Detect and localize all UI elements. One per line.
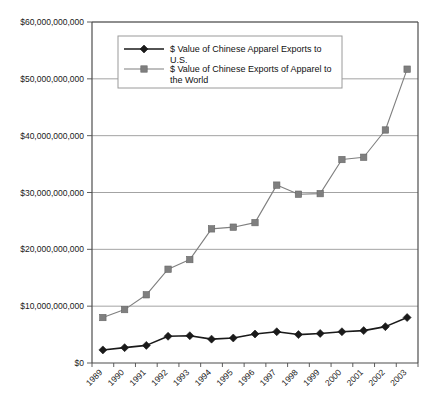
- x-tick-label: 1997: [258, 367, 279, 388]
- data-point-marker-square: [252, 219, 258, 225]
- data-point-marker-square: [208, 226, 214, 232]
- data-point-marker-square: [360, 154, 366, 160]
- data-point-marker-square: [339, 156, 345, 162]
- x-tick-label: 1989: [84, 367, 105, 388]
- x-tick-label: 2000: [323, 367, 344, 388]
- legend-label-1: $ Value of Chinese Apparel Exports to: [170, 44, 321, 54]
- x-axis-labels: 1989199019911992199319941995199619971998…: [84, 363, 418, 388]
- data-point-marker-square: [165, 266, 171, 272]
- x-tick-label: 1993: [171, 367, 192, 388]
- x-tick-label: 2002: [366, 367, 387, 388]
- y-tick-label: $40,000,000,000: [20, 131, 84, 141]
- x-tick-label: 1996: [236, 367, 257, 388]
- line-chart: $0$10,000,000,000$20,000,000,000$30,000,…: [0, 0, 432, 402]
- y-tick-label: $60,000,000,000: [20, 17, 84, 27]
- x-tick-label: 1991: [127, 367, 148, 388]
- x-tick-label: 2001: [345, 367, 366, 388]
- data-point-marker-square: [100, 314, 106, 320]
- y-axis-labels: $0$10,000,000,000$20,000,000,000$30,000,…: [20, 17, 84, 368]
- chart-legend: $ Value of Chinese Apparel Exports toU.S…: [118, 36, 342, 88]
- data-point-marker-square: [295, 191, 301, 197]
- y-tick-label: $50,000,000,000: [20, 74, 84, 84]
- chart-container: $0$10,000,000,000$20,000,000,000$30,000,…: [0, 0, 432, 402]
- x-tick-label: 1999: [301, 367, 322, 388]
- y-tick-label: $20,000,000,000: [20, 244, 84, 254]
- x-tick-label: 1998: [279, 367, 300, 388]
- legend-label-2: the World: [170, 75, 208, 85]
- x-tick-label: 1994: [192, 367, 213, 388]
- legend-label-2: $ Value of Chinese Exports of Apparel to: [170, 64, 331, 74]
- y-tick-label: $0: [75, 358, 85, 368]
- data-point-marker-square: [404, 66, 410, 72]
- x-tick-label: 1992: [149, 367, 170, 388]
- data-point-marker-square: [187, 256, 193, 262]
- data-point-marker-square: [382, 127, 388, 133]
- x-tick-label: 2003: [388, 367, 409, 388]
- data-point-marker-square: [121, 306, 127, 312]
- data-point-marker-square: [141, 66, 147, 72]
- data-point-marker-square: [230, 224, 236, 230]
- y-tick-label: $10,000,000,000: [20, 301, 84, 311]
- y-tick-label: $30,000,000,000: [20, 188, 84, 198]
- data-point-marker-square: [317, 190, 323, 196]
- data-point-marker-square: [274, 182, 280, 188]
- x-tick-label: 1995: [214, 367, 235, 388]
- data-point-marker-square: [143, 292, 149, 298]
- x-tick-label: 1990: [106, 367, 127, 388]
